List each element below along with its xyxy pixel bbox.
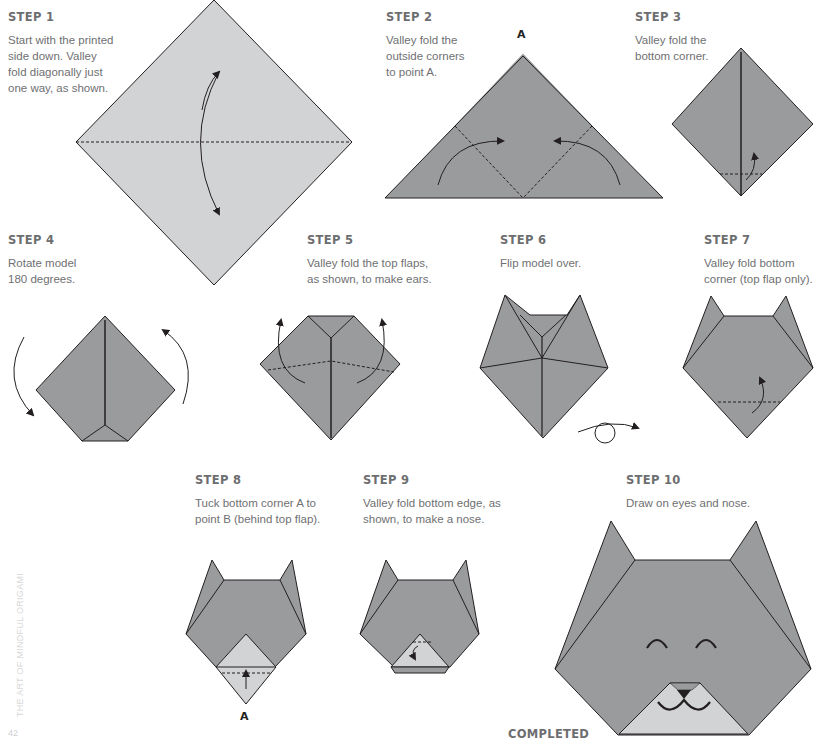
step-3: STEP 3 Valley fold thebottom corner. <box>635 10 709 64</box>
step8-diagram <box>186 560 306 704</box>
step-text: Valley fold bottomcorner (top flap only)… <box>704 255 813 287</box>
diagrams-canvas <box>0 0 817 744</box>
step-2: STEP 2 Valley fold theoutside cornersto … <box>386 10 465 80</box>
step-title: STEP 2 <box>386 10 465 24</box>
step-text: Draw on eyes and nose. <box>626 495 750 511</box>
step-title: STEP 7 <box>704 233 813 247</box>
step-text: Start with the printedside down. Valleyf… <box>8 32 113 96</box>
step-title: STEP 9 <box>363 473 501 487</box>
step-text: Valley fold thebottom corner. <box>635 32 709 64</box>
step-text: Valley fold theoutside cornersto point A… <box>386 32 465 80</box>
step-title: STEP 10 <box>626 473 750 487</box>
step-text: Tuck bottom corner A topoint B (behind t… <box>195 495 320 527</box>
point-a-label: A <box>240 710 249 723</box>
step7-diagram <box>683 296 813 438</box>
step3-diagram <box>672 48 813 196</box>
flip-arrow-icon <box>578 424 638 432</box>
step9-diagram <box>360 560 479 673</box>
step4-diagram <box>14 316 188 441</box>
page-number: 42 <box>8 728 18 738</box>
step-text: Valley fold the top flaps,as shown, to m… <box>307 255 432 287</box>
step-8: STEP 8 Tuck bottom corner A topoint B (b… <box>195 473 320 527</box>
step5-diagram <box>260 316 400 440</box>
origami-instruction-page: STEP 1 Start with the printedside down. … <box>0 0 817 744</box>
step-text: Flip model over. <box>500 255 581 271</box>
point-a-label: A <box>517 28 526 41</box>
step-7: STEP 7 Valley fold bottomcorner (top fla… <box>704 233 813 287</box>
step-9: STEP 9 Valley fold bottom edge, asshown,… <box>363 473 501 527</box>
completed-label: COMPLETED <box>508 727 589 741</box>
step10-completed-cat <box>555 521 811 735</box>
step-4: STEP 4 Rotate model180 degrees. <box>8 233 76 287</box>
step-title: STEP 8 <box>195 473 320 487</box>
step-1: STEP 1 Start with the printedside down. … <box>8 10 113 96</box>
step-title: STEP 3 <box>635 10 709 24</box>
step-title: STEP 6 <box>500 233 581 247</box>
step-text: Valley fold bottom edge, asshown, to mak… <box>363 495 501 527</box>
step-5: STEP 5 Valley fold the top flaps,as show… <box>307 233 432 287</box>
step-title: STEP 4 <box>8 233 76 247</box>
step-title: STEP 5 <box>307 233 432 247</box>
step6-diagram <box>480 295 638 443</box>
step-10: STEP 10 Draw on eyes and nose. <box>626 473 750 511</box>
book-title-sidebar: THE ART OF MINDFUL ORIGAMI <box>15 573 25 717</box>
step-6: STEP 6 Flip model over. <box>500 233 581 271</box>
step-title: STEP 1 <box>8 10 113 24</box>
step-text: Rotate model180 degrees. <box>8 255 76 287</box>
